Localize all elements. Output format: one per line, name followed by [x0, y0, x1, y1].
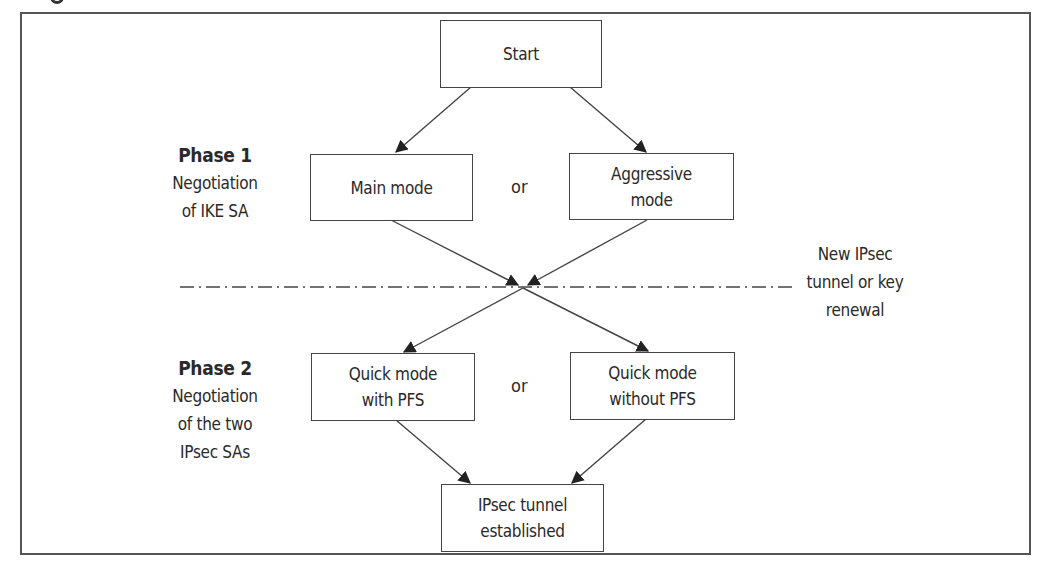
divider-note-line3: renewal [790, 296, 920, 324]
edge-start-main [396, 87, 471, 152]
node-start: Start [440, 20, 602, 88]
phase1-title: Phase 1 [150, 141, 280, 169]
edge-main-junction [391, 220, 518, 285]
node-quick-mode-no-pfs: Quick mode without PFS [570, 352, 735, 420]
node-quick-no-pfs-line1: Quick mode [608, 360, 696, 386]
node-aggressive-mode-line2: mode [611, 187, 692, 213]
phase1-desc-line2: of IKE SA [150, 197, 280, 225]
node-start-label: Start [503, 41, 539, 67]
node-tunnel-established: IPsec tunnel established [441, 484, 604, 552]
phase1-label: Phase 1 Negotiation of IKE SA [150, 141, 280, 225]
edge-quick-no-pfs-established [572, 419, 646, 483]
node-established-line1: IPsec tunnel [478, 492, 567, 518]
phase2-desc-line2: of the two [150, 410, 280, 438]
node-aggressive-mode: Aggressive mode [569, 153, 734, 220]
node-quick-no-pfs-line2: without PFS [608, 386, 696, 412]
phase1-desc-line1: Negotiation [150, 169, 280, 197]
edge-quick-pfs-established [396, 420, 470, 483]
phase2-title: Phase 2 [150, 354, 280, 382]
edge-start-aggressive [570, 87, 646, 152]
node-aggressive-mode-line1: Aggressive [611, 161, 692, 187]
node-quick-pfs-line1: Quick mode [349, 361, 437, 387]
divider-note-line1: New IPsec [790, 240, 920, 268]
edge-junction-quick-pfs [404, 288, 523, 352]
or-label-phase2: or [511, 375, 528, 396]
or-label-phase1: or [511, 176, 528, 197]
divider-note-line2: tunnel or key [790, 268, 920, 296]
edge-aggressive-junction [528, 220, 647, 285]
edge-junction-quick-no-pfs [523, 288, 648, 351]
node-quick-pfs-line2: with PFS [349, 387, 437, 413]
node-quick-mode-pfs: Quick mode with PFS [311, 353, 475, 421]
phase2-desc-line1: Negotiation [150, 382, 280, 410]
phase2-label: Phase 2 Negotiation of the two IPsec SAs [150, 354, 280, 466]
node-main-mode-label: Main mode [350, 175, 432, 201]
phase2-desc-line3: IPsec SAs [150, 438, 280, 466]
divider-note: New IPsec tunnel or key renewal [790, 240, 920, 324]
node-established-line2: established [478, 518, 567, 544]
node-main-mode: Main mode [310, 154, 473, 221]
